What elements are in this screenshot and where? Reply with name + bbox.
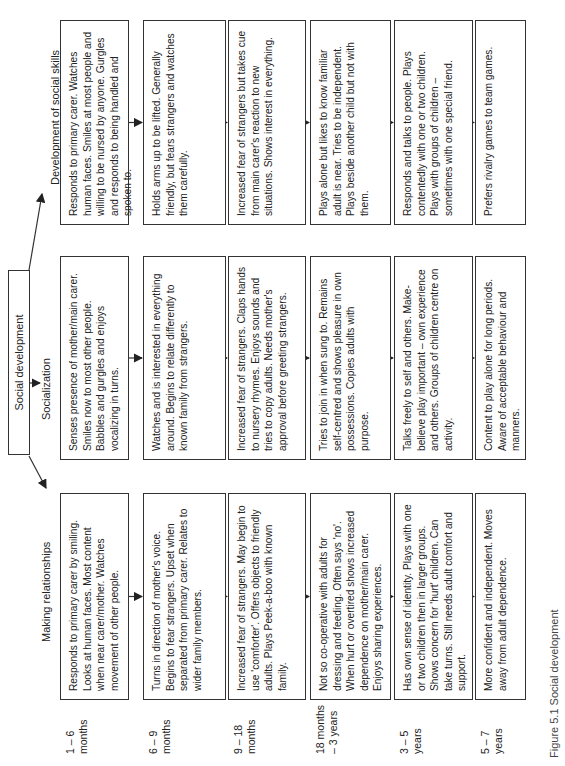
age-label: 9 – 18months xyxy=(232,702,258,754)
age-label-line2: months xyxy=(160,702,173,754)
age-label-line1: 3 – 5 xyxy=(398,702,411,754)
age-label-line2: months xyxy=(77,702,90,754)
age-label-line1: 6 – 9 xyxy=(147,702,160,754)
stage-box-making: Increased fear of strangers. May begin t… xyxy=(228,493,306,700)
age-label-line2: years xyxy=(492,702,505,754)
age-label: 6 – 9months xyxy=(147,702,173,754)
stage-box-making: Responds to primary carer by smiling. Lo… xyxy=(60,493,129,700)
age-label: 18 months– 3 years xyxy=(314,702,340,754)
stage-box-making: Turns in direction of mother's voice. Be… xyxy=(143,493,226,700)
stage-box-social-skills: Responds to primary carer. Watches human… xyxy=(60,20,129,225)
age-label: 5 – 7years xyxy=(479,702,505,754)
stage-box-socialization: Watches and is interested in everything … xyxy=(143,256,226,460)
stage-box-socialization: Increased fear of strangers. Claps hands… xyxy=(228,256,306,460)
column-header-making: Making relationships xyxy=(40,542,52,642)
stage-box-socialization: Talks freely to self and others. Make-be… xyxy=(394,256,473,460)
root-box: Social development xyxy=(8,270,30,455)
stage-box-social-skills: Holds arms up to be lifted. Generally fr… xyxy=(143,20,226,225)
age-label: 3 – 5years xyxy=(398,702,424,754)
age-label-line1: 1 – 6 xyxy=(64,702,77,754)
age-label-line1: 5 – 7 xyxy=(479,702,492,754)
stage-box-socialization: Senses presence of mother/main carer. Sm… xyxy=(60,256,129,460)
age-label: 1 – 6months xyxy=(64,702,90,754)
age-label-line2: – 3 years xyxy=(327,702,340,754)
age-label-line1: 9 – 18 xyxy=(232,702,245,754)
age-label-line2: years xyxy=(411,702,424,754)
stage-box-making: Has own sense of identity. Plays with on… xyxy=(394,493,473,700)
age-label-line1: 18 months xyxy=(314,702,327,754)
age-label-line2: months xyxy=(245,702,258,754)
stage-box-making: More confident and independent. Moves aw… xyxy=(475,493,526,700)
stage-box-socialization: Tries to join in when sung to. Remains s… xyxy=(310,256,391,460)
stage-box-social-skills: Prefers rivalry games to team games. xyxy=(475,20,526,225)
stage-box-socialization: Content to play alone for long periods. … xyxy=(475,256,526,460)
stage-box-social-skills: Plays alone but likes to know familiar a… xyxy=(310,20,391,225)
stage-box-social-skills: Responds and talks to people. Plays cont… xyxy=(394,20,473,225)
figure-caption: Figure 5.1 Social development xyxy=(548,609,560,758)
stage-box-social-skills: Increased fear of strangers but takes cu… xyxy=(228,20,306,225)
root-label: Social development xyxy=(13,315,25,411)
diagram-canvas: Social development Making relationships … xyxy=(0,0,565,766)
column-header-socialization: Socialization xyxy=(40,358,52,420)
stage-box-making: Not so co-operative with adults for dres… xyxy=(310,493,391,700)
